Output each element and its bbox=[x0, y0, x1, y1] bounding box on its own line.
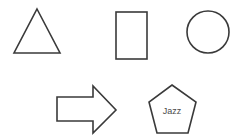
circle-shape bbox=[187, 11, 229, 53]
triangle-shape bbox=[14, 9, 60, 53]
pentagon-label: Jazz bbox=[163, 106, 182, 116]
shapes-canvas: Jazz bbox=[0, 0, 240, 140]
right-arrow-shape bbox=[57, 86, 116, 133]
rectangle-shape bbox=[116, 12, 147, 59]
